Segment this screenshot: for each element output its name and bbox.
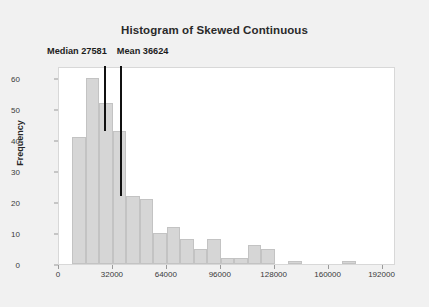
histogram-bar	[288, 261, 301, 264]
histogram-bar	[180, 239, 193, 264]
x-tick-mark	[220, 265, 221, 269]
histogram-bars	[59, 68, 394, 264]
x-tick-mark	[58, 265, 59, 269]
x-tick-label: 192000	[347, 270, 417, 279]
histogram-figure: Histogram of Skewed Continuous Median 27…	[0, 0, 429, 307]
histogram-bar	[248, 245, 261, 264]
histogram-bar	[207, 239, 220, 264]
x-tick-mark	[166, 265, 167, 269]
histogram-bar	[140, 199, 153, 264]
histogram-bar	[167, 227, 180, 264]
histogram-bar	[342, 261, 355, 264]
plot-area	[58, 67, 395, 265]
histogram-bar	[234, 258, 247, 264]
x-tick-mark	[382, 265, 383, 269]
median-marker-line	[104, 66, 106, 131]
mean-marker-line	[120, 66, 122, 196]
x-tick-mark	[112, 265, 113, 269]
histogram-bar	[72, 137, 85, 264]
histogram-bar	[194, 249, 207, 264]
x-tick-mark	[328, 265, 329, 269]
x-tick-mark	[274, 265, 275, 269]
histogram-bar	[153, 233, 166, 264]
histogram-bar	[86, 78, 99, 264]
histogram-bar	[126, 196, 139, 264]
plot-inner	[59, 68, 394, 264]
histogram-bar	[221, 258, 234, 264]
histogram-bar	[261, 249, 274, 264]
